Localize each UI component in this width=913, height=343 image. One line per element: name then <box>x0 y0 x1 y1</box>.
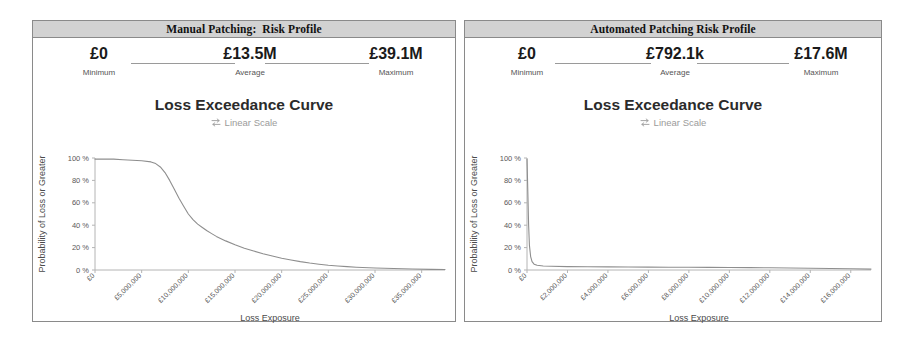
stat-label-average: Average <box>223 67 276 79</box>
y-tick-label: 0 % <box>76 266 89 275</box>
y-tick-label: 0 % <box>508 266 521 275</box>
scale-toggle-label-manual: Linear Scale <box>225 117 278 128</box>
y-tick-label: 20 % <box>504 243 521 252</box>
panel-header-manual: Manual Patching: Risk Profile <box>33 21 455 38</box>
risk-profile-comparison-board: Manual Patching: Risk Profile £0 Minimum… <box>0 0 913 343</box>
x-tick-label: £14,000,000 <box>779 272 812 305</box>
x-tick-label: £10,000,000 <box>157 272 190 305</box>
loss-exceedance-curve <box>527 159 871 269</box>
y-tick-label: 40 % <box>504 221 521 230</box>
stat-connector-min-avg <box>555 63 651 64</box>
x-tick-label: £30,000,000 <box>343 272 376 305</box>
x-tick-label: £2,000,000 <box>538 272 568 302</box>
x-tick-label: £8,000,000 <box>660 272 690 302</box>
stat-value-minimum: £0 <box>83 44 115 64</box>
stat-value-maximum: £39.1M <box>369 44 422 64</box>
panel-body-manual: £0 Minimum £13.5M Average £39.1M Maximum… <box>33 44 455 327</box>
panel-automated-patching: Automated Patching Risk Profile £0 Minim… <box>464 20 882 322</box>
x-tick-label: £35,000,000 <box>390 272 423 305</box>
stat-average-automated: £792.1k Average <box>646 44 704 79</box>
y-tick-label: 60 % <box>72 198 89 207</box>
summary-stats-automated: £0 Minimum £792.1k Average £17.6M Maximu… <box>479 44 867 92</box>
stat-connector-avg-max <box>265 63 369 64</box>
y-tick-label: 40 % <box>72 221 89 230</box>
x-tick-label: £15,000,000 <box>203 272 236 305</box>
stat-label-maximum: Maximum <box>369 67 422 79</box>
x-axis-title: Loss Exposure <box>240 313 300 323</box>
stat-connector-min-avg <box>131 63 235 64</box>
stat-label-minimum: Minimum <box>511 67 543 79</box>
panel-header-automated: Automated Patching Risk Profile <box>465 21 881 38</box>
y-tick-label: 60 % <box>504 198 521 207</box>
y-axis-title: Probability of Loss or Greater <box>469 155 479 272</box>
swap-horizontal-icon <box>211 118 221 127</box>
panel-title-manual: Manual Patching: Risk Profile <box>166 23 321 35</box>
stat-minimum-manual: £0 Minimum <box>83 44 115 79</box>
scale-toggle-label-automated: Linear Scale <box>654 117 707 128</box>
stat-connector-avg-max <box>697 63 789 64</box>
stat-value-minimum: £0 <box>511 44 543 64</box>
x-tick-label: £6,000,000 <box>619 272 649 302</box>
y-tick-label: 100 % <box>68 154 90 163</box>
plot-area-manual: 0 %20 %40 %60 %80 %100 %£0£5,000,000£10,… <box>33 152 455 327</box>
x-tick-label: £16,000,000 <box>819 272 852 305</box>
y-tick-label: 100 % <box>500 154 522 163</box>
stat-value-average: £13.5M <box>223 44 276 64</box>
stat-value-maximum: £17.6M <box>794 44 847 64</box>
panel-manual-patching: Manual Patching: Risk Profile £0 Minimum… <box>32 20 456 322</box>
x-tick-label: £4,000,000 <box>579 272 609 302</box>
stat-label-maximum: Maximum <box>794 67 847 79</box>
stat-minimum-automated: £0 Minimum <box>511 44 543 79</box>
x-tick-label: £5,000,000 <box>113 272 143 302</box>
stat-value-average: £792.1k <box>646 44 704 64</box>
chart-title-manual: Loss Exceedance Curve <box>33 96 455 114</box>
swap-horizontal-icon <box>640 118 650 127</box>
plot-area-automated: 0 %20 %40 %60 %80 %100 %£0£2,000,000£4,0… <box>465 152 881 327</box>
x-axis-title: Loss Exposure <box>669 313 729 323</box>
stat-label-average: Average <box>646 67 704 79</box>
x-tick-label: £20,000,000 <box>250 272 283 305</box>
scale-toggle-manual[interactable]: Linear Scale <box>33 117 455 128</box>
y-tick-label: 80 % <box>72 176 89 185</box>
stat-maximum-manual: £39.1M Maximum <box>369 44 422 79</box>
scale-toggle-automated[interactable]: Linear Scale <box>465 117 881 128</box>
panel-title-automated: Automated Patching Risk Profile <box>590 23 755 35</box>
panel-body-automated: £0 Minimum £792.1k Average £17.6M Maximu… <box>465 44 881 327</box>
loss-exceedance-curve <box>95 159 445 269</box>
x-tick-label: £12,000,000 <box>738 272 771 305</box>
chart-title-automated: Loss Exceedance Curve <box>465 96 881 114</box>
stat-maximum-automated: £17.6M Maximum <box>794 44 847 79</box>
y-tick-label: 20 % <box>72 243 89 252</box>
x-tick-label: £10,000,000 <box>698 272 731 305</box>
stat-label-minimum: Minimum <box>83 67 115 79</box>
summary-stats-manual: £0 Minimum £13.5M Average £39.1M Maximum <box>47 44 441 92</box>
loss-exceedance-chart-manual: 0 %20 %40 %60 %80 %100 %£0£5,000,000£10,… <box>33 152 455 327</box>
x-tick-label: £25,000,000 <box>297 272 330 305</box>
loss-exceedance-chart-automated: 0 %20 %40 %60 %80 %100 %£0£2,000,000£4,0… <box>465 152 881 327</box>
stat-average-manual: £13.5M Average <box>223 44 276 79</box>
y-tick-label: 80 % <box>504 176 521 185</box>
y-axis-title: Probability of Loss or Greater <box>37 155 47 272</box>
